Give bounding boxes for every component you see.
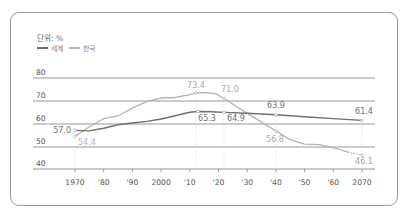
series-world-line <box>75 112 362 131</box>
x-tick: '80 <box>98 178 110 187</box>
label-world-2070: 61.4 <box>355 107 373 116</box>
label-korea-2022: 71.0 <box>221 85 239 94</box>
x-tick: 2070 <box>352 178 371 187</box>
label-world-2040: 63.9 <box>267 101 285 110</box>
x-tick: '40 <box>270 178 282 187</box>
series-korea-dotted-tail <box>348 152 362 155</box>
x-tick: '20 <box>213 178 225 187</box>
x-tick: '30 <box>241 178 253 187</box>
y-tick: 80 <box>36 68 46 77</box>
label-korea-1970: 54.4 <box>78 138 96 147</box>
guide-lines <box>75 93 362 169</box>
label-world-2013: 65.3 <box>198 114 216 123</box>
label-korea-2040: 56.8 <box>266 135 284 144</box>
x-axis-labels: 1970 '80 '90 2000 '10 '20 '30 '40 '50 '6… <box>65 178 371 187</box>
label-world-1970: 57.0 <box>53 126 71 135</box>
x-tick: '50 <box>299 178 311 187</box>
x-tick: 2000 <box>151 178 170 187</box>
gridlines <box>33 78 375 169</box>
y-axis-labels: 80 70 60 50 40 <box>36 68 46 168</box>
label-korea-peak: 73.4 <box>187 81 205 90</box>
label-korea-2070: 46.1 <box>355 157 373 166</box>
x-tick: '10 <box>184 178 196 187</box>
line-chart: 80 70 60 50 40 1970 '80 '90 2000 '10 '20… <box>0 0 408 219</box>
x-tick: '90 <box>127 178 139 187</box>
y-tick: 70 <box>36 91 46 100</box>
y-tick: 50 <box>36 137 46 146</box>
y-tick: 40 <box>36 159 46 168</box>
label-world-2022: 64.9 <box>227 114 245 123</box>
x-tick: '60 <box>327 178 339 187</box>
y-tick: 60 <box>36 114 46 123</box>
x-tick: 1970 <box>65 178 84 187</box>
